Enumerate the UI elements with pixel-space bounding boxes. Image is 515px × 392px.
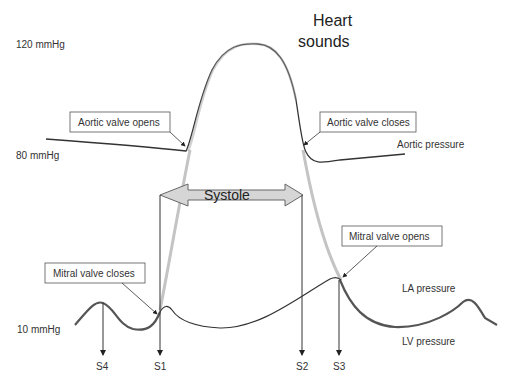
aortic-pressure-label: Aortic pressure: [397, 139, 465, 150]
systole-label: Systole: [204, 187, 250, 203]
label-10-mmhg: 10 mmHg: [17, 324, 60, 335]
aortic-peak-shading: [188, 44, 296, 151]
lv-upstroke-highlight: [160, 150, 190, 310]
annotation-mitral-valve-opens: Mitral valve opens: [342, 226, 442, 277]
sound-label-s2: S2: [296, 361, 309, 372]
sound-label-s3: S3: [333, 361, 346, 372]
title-line-1: Heart: [313, 12, 353, 29]
lv-downstroke-highlight: [303, 150, 341, 280]
sound-label-s4: S4: [96, 361, 109, 372]
sound-label-s1: S1: [154, 361, 167, 372]
svg-text:Aortic valve closes: Aortic valve closes: [327, 117, 410, 128]
title-line-2: sounds: [298, 33, 350, 50]
annotation-aortic-valve-opens: Aortic valve opens: [70, 112, 185, 146]
svg-text:Mitral valve closes: Mitral valve closes: [53, 268, 135, 279]
la-pressure-label: LA pressure: [402, 283, 456, 294]
la-pressure-curve: [160, 277, 341, 328]
annotation-mitral-valve-closes: Mitral valve closes: [45, 263, 157, 314]
aortic-pressure-curve: [46, 44, 405, 162]
lv-pressure-label: LV pressure: [402, 336, 456, 347]
svg-text:Mitral valve opens: Mitral valve opens: [349, 231, 430, 242]
label-80-mmhg: 80 mmHg: [16, 150, 59, 161]
lv-pressure-curve: [75, 302, 160, 329]
heart-sounds-diagram: Heart sounds 120 mmHg 80 mmHg 10 mmHg Sy…: [0, 0, 515, 392]
svg-text:Aortic valve opens: Aortic valve opens: [78, 117, 160, 128]
label-120-mmhg: 120 mmHg: [16, 39, 65, 50]
